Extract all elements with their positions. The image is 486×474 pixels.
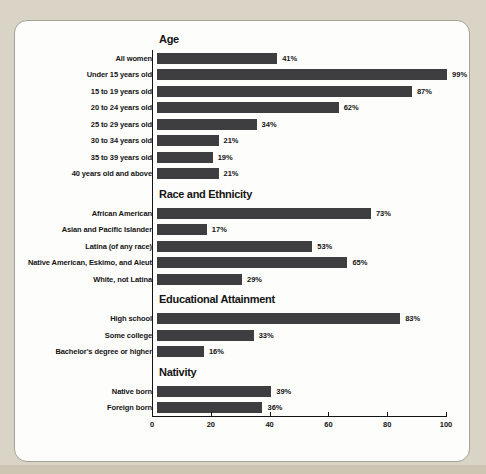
x-axis-tick-label: 40 [265,420,273,429]
bar-row: High school83% [17,311,450,328]
x-axis-tick-label: 60 [324,420,332,429]
bar-value-label: 16% [209,347,224,356]
x-axis-tick [270,412,271,417]
x-axis-tick [387,412,388,417]
bar-value-label: 33% [259,331,274,340]
figure-panel: AgeAll women41%Under 15 years old99%15 t… [14,20,470,462]
bar-value-label: 17% [212,225,227,234]
bar [157,152,213,163]
bar-value-label: 21% [224,169,239,178]
bar-plot-area: 29% [157,274,450,285]
bar-label: Latina (of any race) [17,242,157,251]
bar-label: Bachelor's degree or higher [17,347,157,356]
bar-value-label: 87% [417,87,432,96]
bar-label: 25 to 29 years old [17,120,157,129]
bar-row: Native American, Eskimo, and Aleut65% [17,255,450,272]
bar-plot-area: 99% [157,69,450,80]
bar-plot-area: 87% [157,86,450,97]
bar [157,224,207,235]
bar [157,119,257,130]
bar-plot-area: 39% [157,386,450,397]
bar [157,168,219,179]
bar-value-label: 62% [344,103,359,112]
bar-row: Native born39% [17,383,450,400]
bar-plot-area: 19% [157,152,450,163]
x-axis-tick [211,412,212,417]
bar-row: 30 to 34 years old21% [17,133,450,150]
bar-row: African American73% [17,205,450,222]
bar-row: 35 to 39 years old19% [17,149,450,166]
bar [157,53,277,64]
bar-row: Foreign born36% [17,400,450,417]
bar [157,257,347,268]
bar-value-label: 39% [276,387,291,396]
y-axis-line [152,50,153,417]
bar-plot-area: 41% [157,53,450,64]
bar [157,69,447,80]
section-header: Race and Ethnicity [152,188,252,200]
bar-row: White, not Latina29% [17,271,450,288]
x-axis-tick [446,412,447,417]
bar [157,208,371,219]
section-header: Nativity [152,366,196,378]
bar-row: Latina (of any race)53% [17,238,450,255]
bar [157,102,339,113]
bar [157,386,271,397]
bar-plot-area: 53% [157,241,450,252]
bar-plot-area: 17% [157,224,450,235]
bar-plot-area: 65% [157,257,450,268]
bar-label: White, not Latina [17,275,157,284]
bar-label: Under 15 years old [17,70,157,79]
bar-label: Asian and Pacific Islander [17,225,157,234]
bar-label: African American [17,209,157,218]
bar-value-label: 99% [452,70,467,79]
bar-value-label: 73% [376,209,391,218]
bar-label: Native American, Eskimo, and Aleut [17,258,157,267]
bar-label: Foreign born [17,403,157,412]
section-header: Age [152,33,179,45]
bar-row: 15 to 19 years old87% [17,83,450,100]
x-axis-tick-label: 100 [440,420,453,429]
bar [157,402,262,413]
bar-label: High school [17,314,157,323]
bar-value-label: 65% [352,258,367,267]
bar [157,241,312,252]
x-axis-tick-label: 0 [150,420,154,429]
bar-plot-area: 34% [157,119,450,130]
bar [157,330,254,341]
bar-row: 40 years old and above21% [17,166,450,183]
bar [157,274,242,285]
bar-value-label: 53% [317,242,332,251]
bar-row: Bachelor's degree or higher16% [17,344,450,361]
bar-label: 15 to 19 years old [17,87,157,96]
bar-label: All women [17,54,157,63]
bar [157,346,204,357]
section-header-row: Nativity [17,360,450,383]
x-axis-tick [328,412,329,417]
x-axis-tick-label: 20 [207,420,215,429]
bar-row: 20 to 24 years old62% [17,100,450,117]
bar-label: 35 to 39 years old [17,153,157,162]
x-axis-tick-label: 80 [383,420,391,429]
chart: AgeAll women41%Under 15 years old99%15 t… [17,27,450,432]
bar [157,313,400,324]
bar [157,135,219,146]
bar-label: Some college [17,331,157,340]
bar-plot-area: 62% [157,102,450,113]
section-header-row: Age [17,27,450,50]
bar-row: Some college33% [17,327,450,344]
bar-value-label: 36% [267,403,282,412]
x-axis-line [152,416,446,417]
bar-plot-area: 36% [157,402,450,413]
bar-value-label: 41% [282,54,297,63]
section-header-row: Educational Attainment [17,288,450,311]
section-header-row: Race and Ethnicity [17,182,450,205]
bar-plot-area: 21% [157,168,450,179]
bar-row: All women41% [17,50,450,67]
bar-value-label: 19% [218,153,233,162]
bar-plot-area: 16% [157,346,450,357]
bar-label: 40 years old and above [17,169,157,178]
bar-row: Asian and Pacific Islander17% [17,222,450,239]
bar-row: Under 15 years old99% [17,67,450,84]
bar-plot-area: 33% [157,330,450,341]
